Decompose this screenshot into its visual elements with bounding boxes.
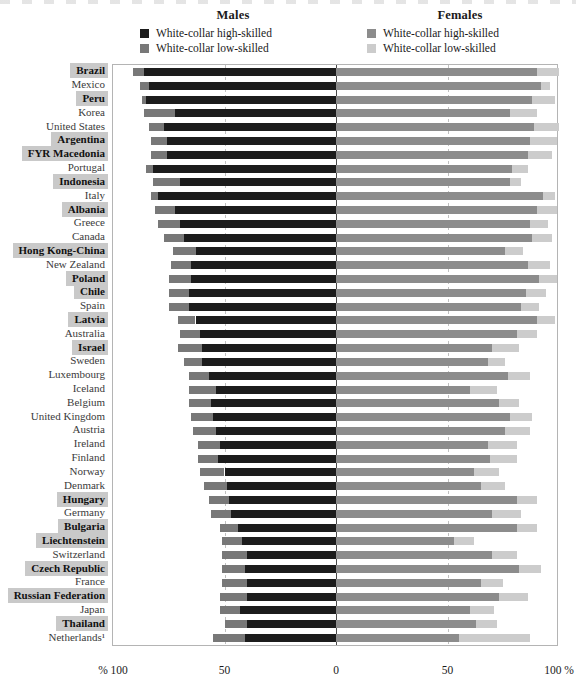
bar-segment-male-low-skilled xyxy=(220,524,238,532)
category-label: Spain xyxy=(74,298,108,313)
bar-row xyxy=(113,565,557,573)
bar-segment-male-high-skilled xyxy=(245,634,336,642)
category-label: Korea xyxy=(72,105,108,120)
bar-segment-female-high-skilled xyxy=(336,565,519,573)
bar-segment-female-low-skilled xyxy=(521,303,539,311)
bar-segment-female-high-skilled xyxy=(336,192,543,200)
bar-segment-male-low-skilled xyxy=(204,482,226,490)
bar-segment-female-high-skilled xyxy=(336,386,470,394)
legend-title-females: Females xyxy=(345,8,575,23)
category-label: Poland xyxy=(66,271,108,286)
bar-segment-male-high-skilled xyxy=(216,386,336,394)
bar-segment-male-low-skilled xyxy=(191,413,213,421)
bar-row xyxy=(113,234,557,242)
legend-swatch-icon xyxy=(367,44,376,53)
bar-segment-female-high-skilled xyxy=(336,620,476,628)
bar-segment-male-high-skilled xyxy=(180,178,336,186)
category-label: Netherlands¹ xyxy=(43,630,108,645)
category-label: Portugal xyxy=(62,160,108,175)
bar-segment-female-low-skilled xyxy=(470,386,497,394)
bar-segment-female-high-skilled xyxy=(336,537,454,545)
bar-segment-female-low-skilled xyxy=(510,178,521,186)
bar-segment-female-low-skilled xyxy=(530,220,548,228)
bar-row xyxy=(113,399,557,407)
bar-segment-male-low-skilled xyxy=(164,234,184,242)
bar-segment-female-low-skilled xyxy=(528,151,553,159)
bar-segment-male-low-skilled xyxy=(180,330,200,338)
bar-segment-female-high-skilled xyxy=(336,606,470,614)
bar-row xyxy=(113,413,557,421)
bar-segment-female-high-skilled xyxy=(336,496,517,504)
bar-segment-male-high-skilled xyxy=(202,344,336,352)
category-label: Latvia xyxy=(68,312,108,327)
bar-segment-male-high-skilled xyxy=(191,275,336,283)
legend-label-females-low: White-collar low-skilled xyxy=(383,41,496,55)
bar-segment-female-low-skilled xyxy=(517,330,537,338)
category-label: Australia xyxy=(59,326,108,341)
bar-segment-male-high-skilled xyxy=(247,620,336,628)
category-label: Hungary xyxy=(57,492,108,507)
bar-row xyxy=(113,165,557,173)
bar-segment-male-low-skilled xyxy=(171,261,191,269)
bar-row xyxy=(113,344,557,352)
bar-segment-male-low-skilled xyxy=(211,510,231,518)
legend-item-males-high: White-collar high-skilled xyxy=(118,26,348,40)
bar-row xyxy=(113,192,557,200)
category-label: Brazil xyxy=(70,63,108,78)
bar-row xyxy=(113,468,557,476)
category-label: Ireland xyxy=(68,436,108,451)
legend-title-males: Males xyxy=(118,8,348,23)
chart-legend: Males White-collar high-skilled White-co… xyxy=(0,8,576,60)
bar-segment-male-high-skilled xyxy=(149,82,336,90)
bar-segment-female-low-skilled xyxy=(481,482,506,490)
bar-segment-male-low-skilled xyxy=(189,372,209,380)
bar-row xyxy=(113,593,557,601)
bar-segment-male-low-skilled xyxy=(146,165,153,173)
bar-segment-female-high-skilled xyxy=(336,234,532,242)
bar-segment-female-high-skilled xyxy=(336,468,474,476)
category-label: Belgium xyxy=(61,395,108,410)
bar-segment-male-low-skilled xyxy=(222,579,247,587)
bar-segment-female-high-skilled xyxy=(336,289,526,297)
category-label: Finland xyxy=(65,450,108,465)
bar-segment-male-high-skilled xyxy=(229,496,336,504)
bar-segment-female-low-skilled xyxy=(474,468,499,476)
bar-row xyxy=(113,137,557,145)
bar-segment-female-high-skilled xyxy=(336,206,537,214)
value-axis-ticks: % 10050050100 % xyxy=(0,664,576,684)
category-label: France xyxy=(69,574,108,589)
bar-segment-male-high-skilled xyxy=(189,289,336,297)
bar-segment-female-high-skilled xyxy=(336,330,517,338)
bar-segment-female-high-skilled xyxy=(336,455,490,463)
category-label: Italy xyxy=(79,188,108,203)
bar-row xyxy=(113,247,557,255)
bar-segment-female-low-skilled xyxy=(517,496,537,504)
bar-segment-female-low-skilled xyxy=(532,234,552,242)
bar-row xyxy=(113,551,557,559)
bar-segment-female-low-skilled xyxy=(488,441,517,449)
bar-segment-female-high-skilled xyxy=(336,510,492,518)
axis-tick-label: 50 xyxy=(219,664,231,676)
axis-tick-label: % 100 xyxy=(98,664,128,676)
bar-segment-female-low-skilled xyxy=(492,551,517,559)
category-label: Hong Kong-China xyxy=(13,243,109,258)
category-label: Germany xyxy=(58,505,108,520)
axis-tick-label: 50 xyxy=(442,664,454,676)
bar-segment-female-low-skilled xyxy=(541,82,550,90)
bar-segment-male-low-skilled xyxy=(220,593,247,601)
legend-swatch-icon xyxy=(140,29,149,38)
bar-segment-female-high-skilled xyxy=(336,303,521,311)
bar-segment-female-high-skilled xyxy=(336,137,530,145)
bar-row xyxy=(113,620,557,628)
bar-row xyxy=(113,386,557,394)
bar-row xyxy=(113,634,557,642)
bar-segment-female-low-skilled xyxy=(537,316,555,324)
bar-segment-female-low-skilled xyxy=(499,399,519,407)
bar-segment-female-low-skilled xyxy=(510,413,532,421)
bar-segment-male-low-skilled xyxy=(225,620,247,628)
bar-row xyxy=(113,537,557,545)
bar-segment-female-high-skilled xyxy=(336,151,528,159)
bar-segment-male-low-skilled xyxy=(149,123,165,131)
bar-segment-male-high-skilled xyxy=(175,109,336,117)
bar-segment-female-low-skilled xyxy=(537,206,557,214)
